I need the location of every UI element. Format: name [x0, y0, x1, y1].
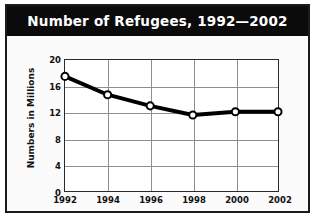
data-point-marker: 1998: 11.6 — [189, 111, 196, 118]
x-axis-tick-label: 2002 — [268, 195, 292, 205]
series-line — [65, 76, 278, 115]
data-point-marker: 1996: 13 — [147, 102, 154, 109]
x-axis-tick-label: 1994 — [96, 195, 120, 205]
x-axis-tick-label: 1996 — [139, 195, 163, 205]
data-point-marker: 1992: 17.5 — [61, 73, 68, 80]
data-point-marker: 2002: 12.1 — [274, 108, 281, 115]
x-axis-tick-label: 1998 — [182, 195, 206, 205]
plot-area: 048121620 199219941996199820002002 1992:… — [64, 59, 279, 192]
y-axis-tick-label: 12 — [49, 108, 61, 118]
y-axis-title: Numbers in Millions — [26, 63, 36, 173]
page-title: Number of Refugees, 1992—2002 — [27, 13, 287, 29]
y-axis-tick-label: 4 — [55, 161, 61, 171]
y-axis-tick-label: 16 — [49, 82, 61, 92]
chart-figure: Number of Refugees, 1992—2002 Numbers in… — [5, 4, 310, 213]
x-axis-tick-label: 1992 — [53, 195, 77, 205]
x-axis-tick-label: 2000 — [225, 195, 249, 205]
chart-title-bar: Number of Refugees, 1992—2002 — [7, 6, 308, 36]
plot-card: Numbers in Millions 048121620 1992199419… — [7, 36, 308, 211]
y-axis-tick-label: 20 — [49, 55, 61, 65]
y-axis-tick-label: 8 — [55, 135, 61, 145]
line-series: 1992: 17.51994: 14.71996: 131998: 11.620… — [65, 60, 278, 191]
data-point-marker: 1994: 14.7 — [104, 91, 111, 98]
data-point-marker: 2000: 12.1 — [232, 108, 239, 115]
